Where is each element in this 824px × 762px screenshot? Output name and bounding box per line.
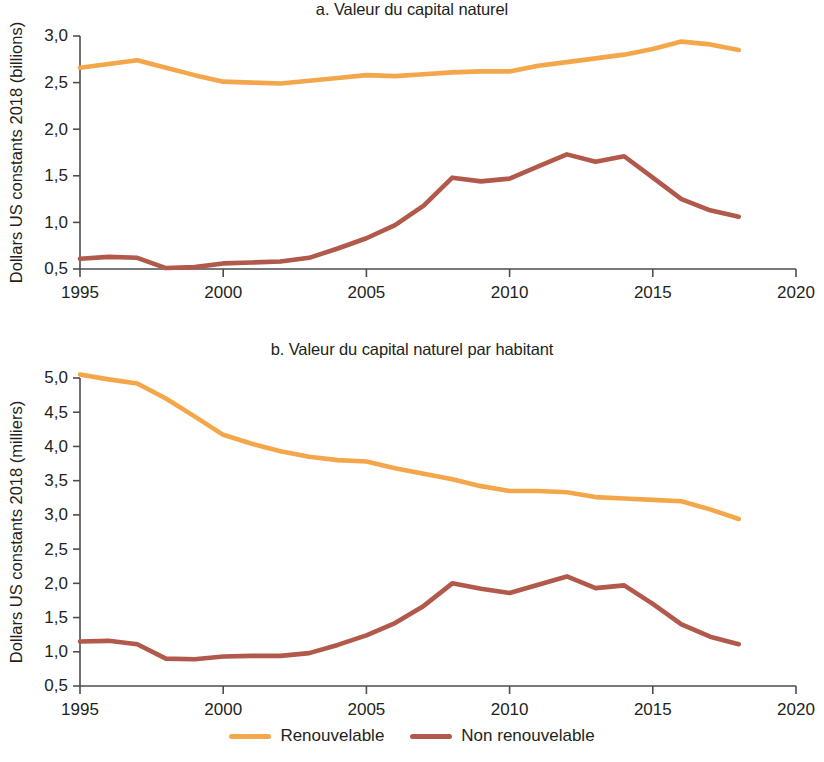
series-line-renouvelable [80, 375, 739, 519]
y-axis-title: Dollars US constants 2018 (milliers) [7, 401, 25, 663]
y-tick-label: 3,0 [44, 26, 68, 45]
y-tick-label: 1,0 [44, 642, 68, 661]
series-line-non-renouvelable [80, 154, 739, 268]
panel-b-plot: 0,51,01,52,02,53,03,54,04,55,01995200020… [0, 364, 824, 720]
series-line-non-renouvelable [80, 576, 739, 659]
series-line-renouvelable [80, 42, 739, 84]
y-tick-label: 2,5 [44, 73, 68, 92]
y-tick-label: 4,5 [44, 403, 68, 422]
legend-item-renouvelable: Renouvelable [229, 726, 384, 746]
x-tick-label: 1995 [61, 700, 99, 719]
y-tick-label: 5,0 [44, 368, 68, 387]
y-tick-label: 4,0 [44, 437, 68, 456]
legend-label-renouvelable: Renouvelable [280, 726, 384, 746]
natural-capital-figure: a. Valeur du capital naturel 0,51,01,52,… [0, 0, 824, 762]
y-axis-title: Dollars US constants 2018 (billions) [7, 22, 25, 283]
legend-swatch-non-renouvelable [410, 734, 452, 739]
x-tick-label: 2015 [634, 283, 672, 302]
legend-swatch-renouvelable [229, 734, 271, 739]
x-tick-label: 2020 [777, 283, 815, 302]
y-tick-label: 0,5 [44, 676, 68, 695]
legend-label-non-renouvelable: Non renouvelable [461, 726, 594, 746]
x-tick-label: 2015 [634, 700, 672, 719]
chart-panel-b: b. Valeur du capital naturel par habitan… [0, 340, 824, 720]
y-tick-label: 0,5 [44, 259, 68, 278]
y-tick-label: 1,5 [44, 608, 68, 627]
y-tick-label: 3,0 [44, 505, 68, 524]
chart-legend: Renouvelable Non renouvelable [0, 726, 824, 746]
y-tick-label: 1,5 [44, 166, 68, 185]
panel-b-title: b. Valeur du capital naturel par habitan… [0, 340, 824, 359]
x-tick-label: 2020 [777, 700, 815, 719]
y-tick-label: 3,5 [44, 471, 68, 490]
y-tick-label: 2,0 [44, 120, 68, 139]
y-tick-label: 2,0 [44, 574, 68, 593]
y-tick-label: 2,5 [44, 540, 68, 559]
x-tick-label: 1995 [61, 283, 99, 302]
x-tick-label: 2000 [204, 283, 242, 302]
x-tick-label: 2005 [347, 283, 385, 302]
chart-panel-a: a. Valeur du capital naturel 0,51,01,52,… [0, 0, 824, 318]
legend-item-non-renouvelable: Non renouvelable [410, 726, 594, 746]
x-tick-label: 2005 [347, 700, 385, 719]
panel-a-title: a. Valeur du capital naturel [0, 0, 824, 19]
panel-a-plot: 0,51,01,52,02,53,01995200020052010201520… [0, 22, 824, 318]
x-tick-label: 2010 [491, 700, 529, 719]
x-tick-label: 2010 [491, 283, 529, 302]
y-tick-label: 1,0 [44, 213, 68, 232]
x-tick-label: 2000 [204, 700, 242, 719]
